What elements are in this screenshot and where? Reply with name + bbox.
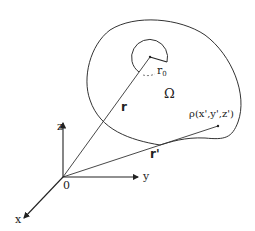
radius-r0-subscript: 0 — [162, 70, 166, 78]
point-rho-dot — [217, 125, 219, 127]
vector-r-label: r — [121, 101, 127, 113]
vector-r — [63, 57, 150, 177]
region-omega-label: Ω — [164, 87, 175, 100]
small-sphere-dashed-arc — [143, 74, 155, 76]
x-axis — [24, 177, 63, 218]
point-rho-label: ρ(x',y',z') — [189, 109, 234, 119]
radius-r0-label: r0 — [157, 65, 167, 78]
vector-r-prime — [63, 126, 218, 177]
origin-label: 0 — [63, 180, 70, 191]
radius-r0-line — [150, 57, 167, 62]
y-axis-label: y — [143, 171, 149, 182]
z-axis-label: z — [57, 121, 63, 132]
x-axis-label: x — [15, 214, 21, 225]
vector-r-prime-label: r' — [150, 148, 160, 160]
